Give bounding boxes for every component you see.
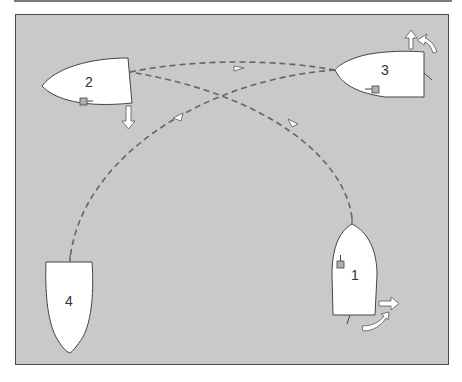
boat-label: 1 bbox=[351, 267, 359, 283]
boat-label: 4 bbox=[65, 293, 73, 309]
helm-icon bbox=[337, 261, 344, 268]
arrow-up-icon bbox=[405, 30, 417, 49]
boat-1: 1 bbox=[332, 218, 377, 324]
maneuver-diagram: 2 3 1 4 bbox=[0, 0, 462, 382]
boat-label: 3 bbox=[381, 62, 389, 78]
boat-3: 3 bbox=[335, 51, 432, 97]
arrow-down-icon bbox=[122, 106, 135, 129]
path-2-to-3 bbox=[130, 62, 335, 72]
path-arrowhead-icon bbox=[173, 113, 183, 121]
path-arrowhead-icon bbox=[288, 119, 298, 127]
curved-arrow-icon bbox=[417, 34, 437, 53]
path-1-to-2 bbox=[130, 72, 352, 218]
boat-2: 2 bbox=[42, 58, 132, 105]
helm-icon bbox=[80, 98, 87, 105]
boat-label: 2 bbox=[85, 74, 93, 90]
path-arrowhead-icon bbox=[234, 66, 244, 71]
helm-icon bbox=[372, 86, 379, 93]
arrow-right-icon bbox=[379, 297, 399, 310]
boat-4: 4 bbox=[46, 255, 93, 353]
